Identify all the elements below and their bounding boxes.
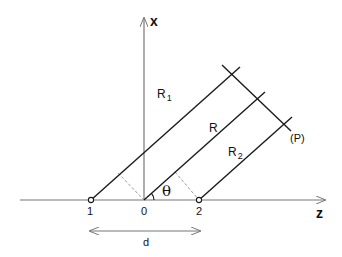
ray-r-label: R: [209, 122, 218, 134]
ray-r-letter: R: [209, 121, 218, 135]
dashed-projection-1: [118, 173, 144, 200]
diagram-canvas: x z 1 0 2 R1 R R2 (P) θ d: [0, 0, 342, 257]
dashed-projection-2: [175, 172, 199, 200]
separation-d-label: d: [143, 237, 149, 248]
point-1-label: 1: [87, 206, 93, 217]
ray-r1-letter: R: [157, 87, 166, 101]
ray-r2-subscript: 2: [238, 151, 243, 161]
diagram-svg: [0, 0, 342, 257]
angle-theta-label: θ: [162, 184, 171, 199]
ray-r1-label: R1: [157, 88, 172, 103]
wavefront-p-label: (P): [290, 133, 305, 144]
ray-r2-letter: R: [228, 145, 237, 159]
source-point-1: [88, 197, 93, 202]
source-point-2: [196, 197, 201, 202]
ray-r2-label: R2: [228, 146, 243, 161]
z-axis-label: z: [316, 206, 323, 220]
point-2-label: 2: [196, 206, 202, 217]
angle-arc: [152, 193, 155, 200]
ray-r1-subscript: 1: [167, 93, 172, 103]
point-0-label: 0: [141, 206, 147, 217]
x-axis-label: x: [150, 14, 158, 28]
